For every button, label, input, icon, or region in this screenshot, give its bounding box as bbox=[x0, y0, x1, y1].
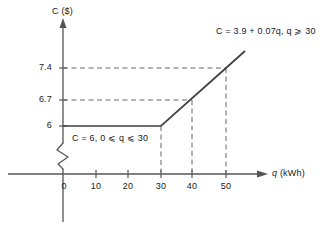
x-tick-label-40: 40 bbox=[182, 181, 202, 191]
cost-function-line bbox=[63, 51, 245, 126]
x-axis-title: q (kWh) bbox=[272, 168, 305, 178]
x-axis-title-unit: (kWh) bbox=[280, 168, 305, 178]
y-tick-label-6: 6 bbox=[26, 120, 52, 130]
y-axis-break-icon bbox=[57, 143, 68, 169]
y-tick-label-7.4: 7.4 bbox=[26, 62, 52, 72]
y-tick-label-6.7: 6.7 bbox=[26, 94, 52, 104]
x-axis-title-var: q bbox=[272, 168, 277, 178]
x-tick-label-10: 10 bbox=[86, 181, 106, 191]
x-axis-arrow-icon bbox=[257, 171, 268, 178]
y-axis-title: C ($) bbox=[52, 6, 73, 16]
variable-rate-equation-label: C = 3.9 + 0.07q, q ⩾ 30 bbox=[216, 26, 316, 36]
x-tick-label-0: 0 bbox=[54, 181, 74, 191]
x-tick-label-20: 20 bbox=[118, 181, 138, 191]
x-tick-label-30: 30 bbox=[151, 181, 171, 191]
x-tick-label-50: 50 bbox=[216, 181, 236, 191]
flat-rate-equation-label: C = 6, 0 ⩽ q ⩽ 30 bbox=[72, 133, 148, 143]
cost-vs-consumption-chart: C ($) q (kWh) 7.4 6.7 6 0 10 20 30 40 50… bbox=[0, 0, 321, 227]
y-axis-arrow-icon bbox=[60, 18, 67, 28]
